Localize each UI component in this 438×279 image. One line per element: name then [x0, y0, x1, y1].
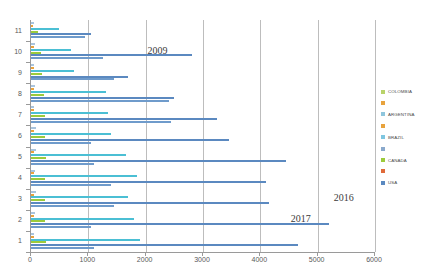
- legend-item-canada[interactable]: CANADA: [381, 154, 437, 165]
- x-tick-label: 1000: [80, 256, 96, 264]
- plot-area: [30, 20, 374, 252]
- bar-group-3: [31, 189, 374, 210]
- legend-swatch-icon: [381, 124, 385, 128]
- bar-colombia-1: [31, 233, 34, 235]
- y-tick-label-1: 1: [18, 237, 22, 244]
- y-tick-label-9: 9: [18, 69, 22, 76]
- bar-brazil-9: [31, 70, 74, 72]
- bar-other-10: [31, 57, 103, 59]
- legend-swatch-icon: [381, 147, 385, 151]
- bar-usa-8: [31, 97, 174, 99]
- bar-brazil-2: [31, 218, 134, 220]
- x-tick-1000: [87, 252, 88, 256]
- x-tick-label: 2000: [137, 256, 153, 264]
- bar-argentina-9: [31, 67, 34, 69]
- y-tick-label-4: 4: [18, 174, 22, 181]
- x-tick-label: 0: [28, 256, 32, 264]
- x-tick-2000: [145, 252, 146, 256]
- annotation-2017: 2017: [291, 213, 311, 224]
- bar-colombia-8: [31, 85, 35, 87]
- bar-group-8: [31, 83, 374, 104]
- bar-group-11: [31, 20, 374, 41]
- y-tick-label-8: 8: [18, 90, 22, 97]
- bar-brazil-5: [31, 154, 126, 156]
- y-tick-label-2: 2: [18, 216, 22, 223]
- y-axis: 1234567891011: [0, 20, 28, 252]
- bar-colombia-7: [31, 106, 34, 108]
- legend-swatch-icon: [381, 181, 385, 185]
- legend: COLOMBIAARGENTINABRAZILCANADAUSA: [381, 86, 437, 189]
- y-tick-label-7: 7: [18, 111, 22, 118]
- bar-argentina-2: [31, 215, 34, 217]
- bar-usa-4: [31, 181, 266, 183]
- y-tick-label-6: 6: [18, 132, 22, 139]
- gridline-6000: [375, 20, 376, 252]
- bar-other-4: [31, 184, 111, 186]
- bar-argentina-4: [31, 172, 34, 174]
- legend-item-marker-5[interactable]: [381, 143, 437, 154]
- legend-item-marker-7[interactable]: [381, 166, 437, 177]
- bar-brazil-4: [31, 175, 137, 177]
- bar-group-7: [31, 104, 374, 125]
- bar-canada-2: [31, 220, 45, 222]
- annotation-2009: 2009: [148, 45, 168, 56]
- bar-canada-5: [31, 157, 46, 159]
- y-tick-label-3: 3: [18, 195, 22, 202]
- bar-other-7: [31, 121, 171, 123]
- bar-group-1: [31, 231, 374, 252]
- legend-item-brazil[interactable]: BRAZIL: [381, 132, 437, 143]
- legend-item-marker-1[interactable]: [381, 97, 437, 108]
- y-tick-label-11: 11: [15, 27, 22, 34]
- legend-item-usa[interactable]: USA: [381, 177, 437, 188]
- legend-item-marker-3[interactable]: [381, 120, 437, 131]
- bar-canada-3: [31, 199, 45, 201]
- bar-other-8: [31, 100, 169, 102]
- bar-argentina-10: [31, 46, 34, 48]
- bar-group-4: [31, 168, 374, 189]
- bar-argentina-11: [31, 25, 33, 27]
- bar-colombia-4: [31, 170, 35, 172]
- legend-label: BRAZIL: [388, 135, 404, 140]
- y-tick-label-10: 10: [14, 48, 22, 55]
- legend-item-colombia[interactable]: COLOMBIA: [381, 86, 437, 97]
- bar-canada-8: [31, 94, 44, 96]
- bar-groups: [31, 20, 374, 252]
- annotation-2016: 2016: [334, 192, 354, 203]
- x-axis-labels: 0100020003000400050006000: [0, 256, 438, 270]
- bar-usa-7: [31, 118, 217, 120]
- bar-usa-9: [31, 76, 128, 78]
- bar-usa-1: [31, 244, 298, 246]
- bar-canada-7: [31, 115, 45, 117]
- bar-other-5: [31, 163, 94, 165]
- legend-swatch-icon: [381, 90, 385, 94]
- bar-colombia-6: [31, 127, 36, 129]
- bar-chart: 1234567891011 0100020003000400050006000 …: [0, 0, 438, 279]
- x-tick-label: 4000: [252, 256, 268, 264]
- bar-canada-6: [31, 136, 45, 138]
- bar-other-1: [31, 247, 94, 249]
- bar-group-2: [31, 210, 374, 231]
- bar-other-2: [31, 226, 91, 228]
- bar-argentina-6: [31, 130, 34, 132]
- x-tick-0: [30, 252, 31, 256]
- bar-canada-1: [31, 241, 46, 243]
- bar-canada-9: [31, 73, 42, 75]
- legend-item-argentina[interactable]: ARGENTINA: [381, 109, 437, 120]
- x-tick-label: 6000: [366, 256, 382, 264]
- bar-brazil-3: [31, 196, 128, 198]
- bar-canada-10: [31, 52, 41, 54]
- bar-argentina-5: [31, 151, 34, 153]
- legend-swatch-icon: [381, 135, 385, 139]
- bar-argentina-3: [31, 194, 34, 196]
- bar-argentina-7: [31, 109, 34, 111]
- x-tick-6000: [374, 252, 375, 256]
- bar-colombia-3: [31, 191, 36, 193]
- legend-swatch-icon: [381, 101, 385, 105]
- bar-colombia-9: [31, 64, 34, 66]
- bar-argentina-1: [31, 236, 34, 238]
- bar-other-11: [31, 36, 85, 38]
- bar-usa-11: [31, 33, 91, 35]
- legend-swatch-icon: [381, 169, 385, 173]
- bar-brazil-8: [31, 91, 106, 93]
- x-tick-label: 3000: [194, 256, 210, 264]
